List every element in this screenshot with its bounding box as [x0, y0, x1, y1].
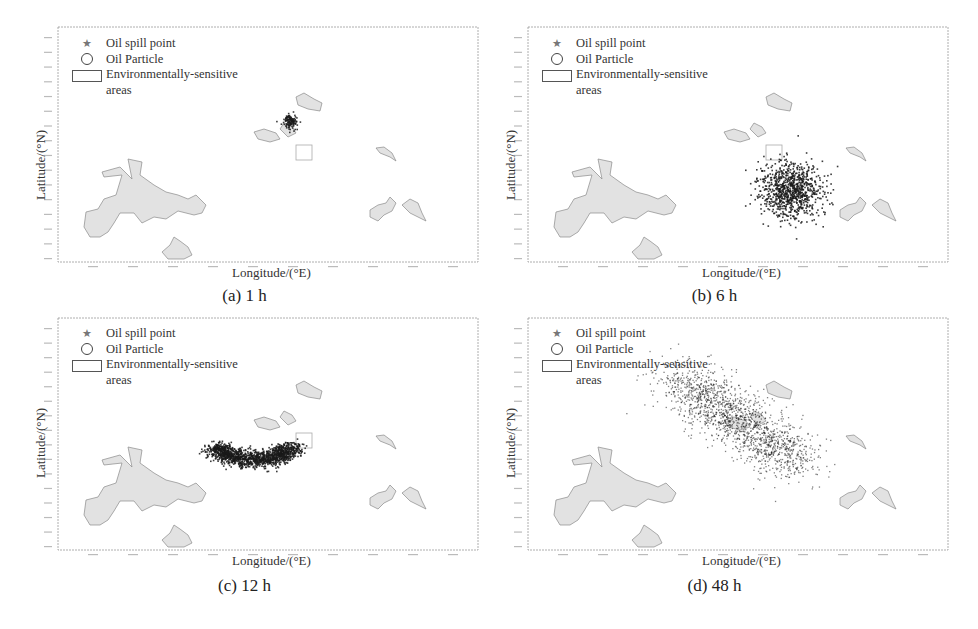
y-axis-label: Latitude/(°N) [33, 130, 49, 200]
island-shape [766, 93, 792, 111]
legend-sensitive-area-2: areas [576, 83, 602, 99]
island-shape [402, 487, 426, 509]
panel-caption: (a) 1 h [0, 286, 489, 306]
star-icon: ★ [538, 36, 576, 51]
circle-icon [538, 52, 576, 67]
legend: ★Oil spill point Oil Particle Environmen… [68, 36, 238, 98]
island-shape [376, 435, 396, 449]
island-shape [872, 199, 896, 221]
island-shape [162, 525, 192, 547]
star-icon: ★ [68, 36, 106, 51]
sensitive-area-box [296, 145, 312, 160]
rectangle-icon [68, 67, 106, 82]
legend-sensitive-area: Environmentally-sensitive [576, 67, 708, 83]
island-shape [84, 159, 206, 237]
island-shape [750, 123, 766, 137]
legend-sensitive-area: Environmentally-sensitive [106, 357, 238, 373]
legend-oil-spill-point: Oil spill point [106, 36, 175, 52]
legend-sensitive-area-2: areas [106, 373, 132, 389]
island-shape [872, 487, 896, 509]
panel-caption: (c) 12 h [0, 576, 489, 596]
island-shape [84, 447, 206, 525]
island-shape [296, 93, 322, 111]
oil-particle-cloud [276, 111, 301, 133]
island-shape [766, 381, 792, 399]
island-shape [846, 435, 866, 449]
circle-icon [538, 342, 576, 357]
star-icon: ★ [538, 326, 576, 341]
island-shape [254, 129, 280, 142]
panel-b: ★Oil spill point Oil Particle Environmen… [470, 0, 959, 314]
x-axis-label: Longitude/(°E) [232, 553, 311, 569]
legend-sensitive-area: Environmentally-sensitive [106, 67, 238, 83]
panel-c: ★Oil spill point Oil Particle Environmen… [0, 308, 489, 622]
x-axis-label: Longitude/(°E) [232, 265, 311, 281]
island-shape [840, 197, 866, 221]
star-icon: ★ [68, 326, 106, 341]
island-shape [846, 147, 866, 161]
circle-icon [68, 52, 106, 67]
rectangle-icon [68, 357, 106, 372]
island-shape [554, 447, 676, 525]
island-shape [280, 411, 296, 425]
y-axis-label: Latitude/(°N) [503, 130, 519, 200]
legend: ★Oil spill point Oil Particle Environmen… [538, 326, 708, 388]
oil-particle-cloud [199, 438, 308, 472]
rectangle-icon [538, 67, 576, 82]
oil-particle-cloud [745, 135, 839, 240]
panel-caption: (d) 48 h [470, 576, 959, 596]
island-shape [376, 147, 396, 161]
island-shape [296, 381, 322, 399]
legend-oil-particle: Oil Particle [576, 342, 633, 358]
legend-sensitive-area-2: areas [106, 83, 132, 99]
panel-d: ★Oil spill point Oil Particle Environmen… [470, 308, 959, 622]
legend: ★Oil spill point Oil Particle Environmen… [68, 326, 238, 388]
legend-oil-particle: Oil Particle [106, 342, 163, 358]
island-shape [370, 197, 396, 221]
x-axis-label: Longitude/(°E) [702, 265, 781, 281]
legend-oil-particle: Oil Particle [106, 52, 163, 68]
legend-oil-spill-point: Oil spill point [106, 326, 175, 342]
legend-oil-particle: Oil Particle [576, 52, 633, 68]
island-shape [554, 159, 676, 237]
panel-a: ★Oil spill point Oil Particle Environmen… [0, 0, 489, 314]
legend: ★Oil spill point Oil Particle Environmen… [538, 36, 708, 98]
island-shape [632, 525, 662, 547]
y-axis-label: Latitude/(°N) [33, 408, 49, 478]
island-shape [724, 129, 750, 142]
legend-sensitive-area-2: areas [576, 373, 602, 389]
legend-sensitive-area: Environmentally-sensitive [576, 357, 708, 373]
sensitive-area-box [766, 145, 782, 160]
island-shape [632, 237, 662, 259]
rectangle-icon [538, 357, 576, 372]
circle-icon [68, 342, 106, 357]
x-axis-label: Longitude/(°E) [702, 553, 781, 569]
island-shape [162, 237, 192, 259]
island-shape [840, 485, 866, 509]
island-shape [254, 417, 280, 430]
y-axis-label: Latitude/(°N) [503, 408, 519, 478]
legend-oil-spill-point: Oil spill point [576, 36, 645, 52]
legend-oil-spill-point: Oil spill point [576, 326, 645, 342]
panel-caption: (b) 6 h [470, 286, 959, 306]
island-shape [402, 199, 426, 221]
island-shape [370, 485, 396, 509]
